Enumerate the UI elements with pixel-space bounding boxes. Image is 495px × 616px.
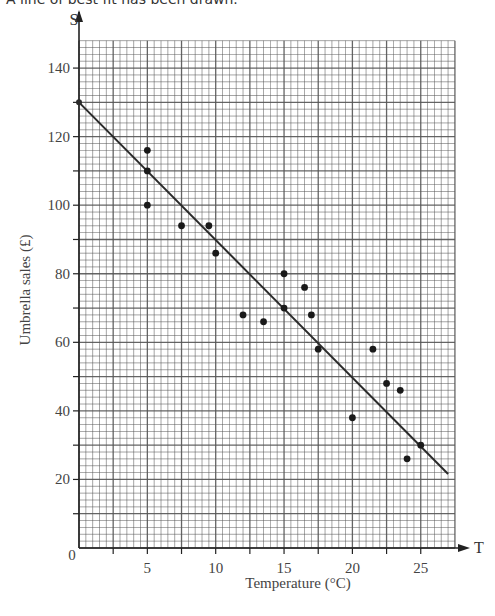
data-point [370,346,377,353]
y-axis-title: Umbrella sales (£) [17,235,34,346]
data-point [144,147,151,154]
data-point [260,318,267,325]
data-point [281,305,288,312]
y-tick-label: 60 [55,334,70,350]
x-tick-label: 25 [413,560,428,576]
data-point [349,414,356,421]
data-point [397,387,404,394]
data-point [178,222,185,229]
scatter-chart: 204060801001201400510152025 T S Temperat… [0,0,495,616]
axis-ticks: 204060801001201400510152025 [48,60,429,576]
axes [75,10,470,552]
data-point [308,311,315,318]
y-tick-label: 40 [55,403,70,419]
x-axis-arrow-icon [458,544,470,552]
grid-minor-lines [79,41,455,548]
y-tick-label: 140 [48,60,71,76]
x-tick-label: 20 [345,560,360,576]
data-point [417,442,424,449]
data-point [281,270,288,277]
x-axis-letter: T [474,539,484,556]
fit-line-start-point [76,99,82,105]
data-point [315,346,322,353]
x-axis-title: Temperature (°C) [245,575,350,592]
data-point [240,311,247,318]
y-tick-label: 120 [48,129,71,145]
y-tick-label: 100 [48,197,71,213]
data-point [301,284,308,291]
data-point [144,168,151,175]
data-point [383,380,390,387]
x-tick-label: 5 [144,560,152,576]
data-point [212,250,219,257]
data-point [144,202,151,209]
y-axis-letter: S [70,11,79,28]
x-tick-label: 15 [277,560,292,576]
data-point [404,455,411,462]
y-tick-label: 80 [55,266,70,282]
data-point [205,222,212,229]
origin-label: 0 [68,547,76,563]
y-tick-label: 20 [55,471,70,487]
x-tick-label: 10 [208,560,223,576]
